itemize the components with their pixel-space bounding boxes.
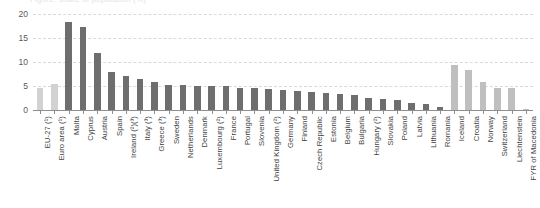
bar-rect [37,88,44,110]
x-axis-tick-mark [497,110,498,114]
bar-rect [51,84,58,110]
x-axis-tick-mark [397,110,398,114]
x-axis-tick-mark [54,110,55,114]
bar [308,14,315,110]
x-axis-tick-label: Czech Republic [315,116,324,171]
x-axis-tick-label: Croatia [472,116,481,141]
bar [423,14,430,110]
x-axis-tick-label: Romania [443,116,452,147]
x-axis-tick-label: Luxembourg (²) [215,116,224,169]
bar-rect [180,85,187,110]
x-axis-tick-label: Belgium [343,116,352,144]
bar [394,14,401,110]
x-axis-tick-mark [283,110,284,114]
bar [494,14,501,110]
bar [223,14,230,110]
x-axis-tick-label: Spain [115,116,124,136]
x-axis-tick-label: Estonia [329,116,338,142]
x-axis-tick-mark [440,110,441,114]
x-axis-tick-mark [269,110,270,114]
bar [237,14,244,110]
bar [165,14,172,110]
bar-rect [194,86,201,110]
bar [508,14,515,110]
x-axis-tick-label: France [229,116,238,140]
x-axis-tick-label: Liechtenstein [515,116,524,162]
bar [251,14,258,110]
x-axis-tick-label: Germany [286,116,295,148]
bar-rect [494,88,501,110]
plot-area: 05101520 [33,14,533,110]
bar-series [33,14,533,110]
y-axis-tick-label: 10 [19,57,28,67]
bar-rect [251,88,258,110]
x-axis-tick-label: Denmark [200,116,209,148]
x-axis-tick-label: Switzerland [500,116,509,156]
x-axis-tick-mark [426,110,427,114]
x-axis-tick-mark [112,110,113,114]
bar [80,14,87,110]
x-axis-tick-mark [240,110,241,114]
bar-rect [223,86,230,110]
x-axis-tick-mark [469,110,470,114]
x-axis-tick-label: Netherlands [186,116,195,158]
x-axis-tick-mark [483,110,484,114]
bar-rect [294,91,301,110]
x-axis-tick-label: Austria [100,116,109,140]
x-axis-tick-mark [354,110,355,114]
x-axis-tick-label: Norway [486,116,495,142]
x-axis-tick-label: Slovenia [257,116,266,146]
bar-rect [351,95,358,110]
x-axis-tick-label: Ireland (²)(³) [129,116,138,158]
x-axis-tick-label: Greece (³) [157,116,166,152]
x-axis-tick-mark [340,110,341,114]
x-axis-tick-mark [69,110,70,114]
x-axis-tick-label: FYR of Macedonia [529,116,538,181]
x-axis-tick-mark [312,110,313,114]
x-axis-tick-label: Cyprus [86,116,95,141]
y-axis-tick-label: 15 [19,33,28,43]
x-axis-tick-label: Poland [400,116,409,140]
bar [323,14,330,110]
bar [465,14,472,110]
x-axis-tick-mark [83,110,84,114]
bar [280,14,287,110]
x-axis-tick-label: Malta [72,116,81,135]
bar-rect [208,86,215,110]
x-axis-tick-label: Latvia [415,116,424,137]
bar-rect [94,53,101,110]
bar [437,14,444,110]
x-axis-tick-mark [97,110,98,114]
x-axis-tick-label: Sweden [172,116,181,144]
bar [365,14,372,110]
bar [265,14,272,110]
bar-rect [508,88,515,110]
bar-rect [137,79,144,110]
x-axis-tick-mark [254,110,255,114]
bar [51,14,58,110]
x-axis-tick-label: Bulgaria [357,116,366,145]
bar [37,14,44,110]
bar-rect [408,103,415,110]
x-axis-tick-mark [412,110,413,114]
bar-rect [280,90,287,110]
bar-rect [451,65,458,110]
bar-rect [265,89,272,110]
x-axis-tick-mark [154,110,155,114]
y-axis-tick-label: 20 [19,9,28,19]
x-axis-labels: EU-27 (¹)Euro area (¹)MaltaCyprusAustria… [33,110,533,205]
bar-rect [80,27,87,110]
bar-rect [365,98,372,110]
bar-rect [480,82,487,110]
bar [337,14,344,110]
x-axis-tick-label: Iceland [457,116,466,141]
bar [194,14,201,110]
x-axis-tick-label: Hungary (²) [372,116,381,156]
bar-rect [308,92,315,110]
bar [180,14,187,110]
bar [294,14,301,110]
x-axis-tick-label: Italy (³) [143,116,152,141]
bar-rect [323,93,330,110]
bar-rect [465,70,472,110]
x-axis-tick-mark [140,110,141,114]
